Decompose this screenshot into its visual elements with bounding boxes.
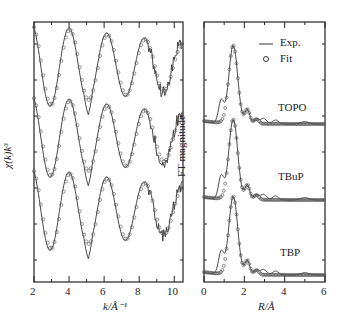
right-tick-4: 4 [281, 285, 287, 297]
annotation-tbup: TBuP [278, 170, 304, 182]
annotation-topo: TOPO [278, 101, 307, 113]
chart-canvas [0, 0, 345, 321]
right-tick-6: 6 [321, 285, 327, 297]
left-tick-2: 2 [30, 285, 36, 297]
left-tick-8: 8 [135, 285, 141, 297]
exafs-figure: 2 4 6 8 10 k/Å⁻¹ χ(k)k³ 0 2 4 6 R/Å FT m… [0, 0, 345, 321]
left-tick-6: 6 [100, 285, 106, 297]
left-tick-4: 4 [65, 285, 71, 297]
right-y-axis-label: FT magnitude [175, 115, 187, 177]
left-y-axis-label: χ(k)k³ [1, 143, 13, 168]
legend-exp-label: Exp. [280, 36, 300, 48]
left-tick-10: 10 [167, 285, 178, 297]
right-x-axis-label: R/Å [258, 300, 275, 312]
annotation-tbp: TBP [280, 246, 300, 258]
right-tick-0: 0 [201, 285, 207, 297]
left-x-axis-label: k/Å⁻¹ [103, 300, 127, 313]
legend-fit-label: Fit [280, 52, 292, 64]
right-tick-2: 2 [241, 285, 247, 297]
